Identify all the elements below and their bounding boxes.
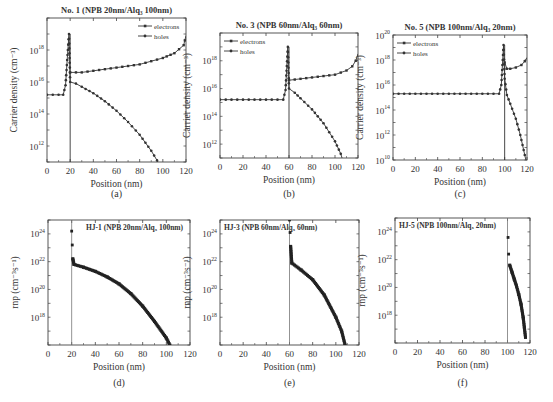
hole-marker	[64, 84, 67, 87]
x-tick-label: 100	[328, 162, 342, 172]
electron-marker	[115, 66, 117, 68]
hole-marker	[481, 92, 484, 95]
hole-marker	[506, 94, 509, 97]
hole-marker	[259, 98, 262, 101]
electron-marker	[150, 60, 152, 62]
hole-marker	[75, 82, 78, 85]
legend-hole-marker	[230, 50, 233, 53]
hole-marker	[498, 92, 501, 95]
hole-marker	[135, 129, 138, 132]
plot-area	[46, 33, 186, 170]
hole-marker	[283, 94, 286, 97]
hole-marker	[492, 92, 495, 95]
hole-marker	[115, 110, 118, 113]
hole-marker	[339, 153, 342, 156]
x-tick-label: 60	[115, 349, 125, 359]
hole-marker	[420, 92, 423, 95]
hole-marker	[150, 150, 153, 153]
hole-marker	[464, 92, 467, 95]
hole-marker	[408, 92, 411, 95]
x-tick-label: 20	[413, 347, 423, 357]
hole-marker	[314, 112, 317, 115]
electron-marker	[92, 70, 94, 72]
panel-title: HJ-5 (NPB 100nm/Alq₃ 20nm)	[399, 221, 497, 230]
x-tick-label: 60	[458, 347, 468, 357]
hole-marker	[285, 84, 288, 87]
hole-marker	[284, 89, 287, 92]
electron-marker	[144, 62, 146, 64]
electron-marker	[345, 69, 347, 71]
y-axis-label: rnp (cm⁻³s⁻¹)	[357, 254, 368, 306]
panel-title: No. 1 (NPB 20nm/Alq₃ 100nm)	[61, 5, 172, 15]
hole-marker	[230, 98, 233, 101]
y-tick-label: 1012	[375, 129, 390, 140]
rnp-marker	[288, 219, 291, 222]
electron-marker	[138, 63, 140, 65]
x-tick-label: 60	[285, 349, 295, 359]
electron-marker	[75, 71, 77, 73]
electron-marker	[311, 76, 313, 78]
electron-marker	[173, 52, 175, 54]
hole-marker	[311, 108, 314, 111]
hole-marker	[153, 154, 156, 157]
hole-marker	[236, 98, 239, 101]
x-tick-label: 40	[91, 349, 101, 359]
hole-marker	[141, 138, 144, 141]
hole-marker	[84, 88, 87, 91]
hole-marker	[431, 92, 434, 95]
panel-caption: (f)	[458, 377, 468, 389]
hole-marker	[500, 84, 503, 87]
hole-marker	[63, 89, 66, 92]
electron-marker	[182, 44, 184, 46]
hole-marker	[144, 142, 147, 145]
hole-marker	[303, 101, 306, 104]
y-tick-label: 1010	[375, 154, 390, 165]
rnp-marker	[507, 253, 510, 256]
x-tick-label: 120	[523, 347, 537, 357]
legend-electron-marker	[403, 42, 406, 45]
y-tick-label: 1024	[30, 228, 45, 239]
x-tick-label: 20	[66, 166, 76, 176]
y-tick-label: 1014	[202, 111, 217, 122]
panel-caption: (c)	[454, 188, 465, 200]
figure: 0204060801001201012101410161018No. 1 (NP…	[0, 0, 553, 402]
hole-marker	[331, 136, 334, 139]
panel-c: 020406080100120101010121014101610181020N…	[355, 22, 534, 200]
electron-marker	[178, 48, 180, 50]
hole-marker	[127, 121, 130, 124]
hole-marker	[436, 92, 439, 95]
y-tick-label: 1016	[202, 83, 217, 94]
y-tick-label: 1016	[375, 79, 390, 90]
x-tick-label: 0	[393, 347, 398, 357]
panel-title: HJ-3 (NPB 60nm/Alq₃ 60nm)	[224, 223, 318, 232]
panel-e: 0204060801001201018102010221024HJ-3 (NPB…	[182, 219, 366, 389]
hole-marker	[66, 64, 69, 67]
x-tick-label: 60	[456, 164, 466, 174]
hole-marker	[299, 97, 302, 100]
panel-b: 0204060801001201012101410161018No. 3 (NP…	[182, 20, 365, 200]
electron-marker	[110, 67, 112, 69]
series-holes-line	[393, 45, 526, 160]
x-tick-label: 0	[218, 349, 223, 359]
x-tick-label: 80	[478, 164, 488, 174]
hole-marker	[285, 74, 288, 77]
electron-marker	[299, 78, 301, 80]
x-tick-label: 100	[501, 347, 515, 357]
hole-marker	[470, 92, 473, 95]
hole-marker	[499, 88, 502, 91]
electron-marker	[162, 57, 164, 59]
y-axis-label: rnp (cm⁻³s⁻¹)	[10, 256, 21, 308]
electron-marker	[156, 58, 158, 60]
hole-marker	[219, 98, 222, 101]
y-tick-label: 1012	[29, 140, 44, 151]
hole-marker	[307, 104, 310, 107]
hole-marker	[513, 112, 516, 115]
hole-marker	[442, 92, 445, 95]
electron-marker	[515, 66, 517, 68]
y-tick-label: 1018	[202, 55, 217, 66]
hole-marker	[500, 79, 503, 82]
hole-marker	[341, 158, 344, 161]
y-tick-label: 1022	[30, 256, 45, 267]
y-tick-label: 1018	[30, 312, 45, 323]
electron-marker	[294, 78, 296, 80]
